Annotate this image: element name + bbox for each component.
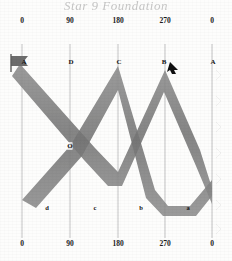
diagram-svg [0,0,232,261]
top-tick-180: 180 [112,16,123,25]
region-label-c: c [94,204,97,211]
wave-band-ascending [22,66,212,216]
bottom-tick-90: 90 [66,239,74,248]
scan-artifacts [216,70,221,234]
top-tick-90: 90 [66,16,74,25]
pointer-arrow-marker [167,62,178,74]
bottom-tick-0b: 0 [210,239,214,248]
point-label-A-left: A [21,58,26,66]
top-tick-0b: 0 [210,16,214,25]
point-label-C: C [116,58,121,66]
bottom-tick-180: 180 [112,239,123,248]
bottom-tick-0a: 0 [20,239,24,248]
point-label-B: B [162,58,167,66]
region-label-a: a [186,204,189,211]
top-tick-0a: 0 [20,16,24,25]
region-label-b: b [139,204,143,211]
bottom-tick-270: 270 [159,239,170,248]
point-label-A-right: A [210,58,215,66]
region-label-d: d [45,204,49,211]
point-label-D: D [68,58,73,66]
origin-label-O: O [67,142,73,150]
top-tick-270: 270 [159,16,170,25]
diagram-canvas: Star 9 Foundation [0,0,232,261]
